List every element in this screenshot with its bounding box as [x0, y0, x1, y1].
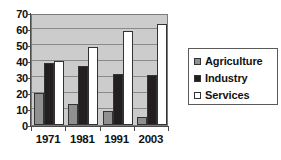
x-tick-label: 1981	[65, 133, 99, 145]
legend-label: Agriculture	[205, 55, 263, 67]
y-tick-label: 10	[6, 106, 28, 115]
bar-services-1981	[88, 47, 98, 125]
x-tick-label: 2003	[134, 133, 168, 145]
legend-swatch-icon	[194, 92, 201, 99]
legend-swatch-icon	[194, 58, 201, 65]
y-tick-mark	[26, 62, 31, 63]
legend-item-industry[interactable]: Industry	[194, 70, 277, 86]
legend-label: Services	[205, 89, 249, 101]
legend-item-agriculture[interactable]: Agriculture	[194, 53, 277, 69]
legend-item-services[interactable]: Services	[194, 87, 277, 103]
bar-agriculture-1981	[68, 104, 78, 125]
y-tick-label: 40	[6, 58, 28, 67]
bar-agriculture-2003	[137, 117, 147, 125]
bar-services-1991	[123, 31, 133, 125]
bar-services-1971	[54, 61, 64, 125]
y-tick-label: 70	[6, 10, 28, 19]
x-tick-mark	[100, 127, 101, 131]
x-tick-mark	[65, 127, 66, 131]
y-tick-label: 30	[6, 74, 28, 83]
bar-group	[101, 15, 135, 125]
bar-industry-1981	[78, 66, 88, 125]
bar-industry-1991	[113, 74, 123, 125]
plot-area	[31, 14, 168, 126]
x-axis-labels: 1971198119912003	[31, 133, 168, 151]
y-tick-label: 50	[6, 42, 28, 51]
bar-group	[32, 15, 66, 125]
y-tick-label: 0	[6, 122, 28, 131]
x-tick-mark	[168, 127, 169, 131]
bar-industry-1971	[44, 63, 54, 125]
bar-agriculture-1991	[103, 111, 113, 125]
y-tick-label: 60	[6, 26, 28, 35]
y-tick-mark	[26, 78, 31, 79]
x-tick-label: 1991	[100, 133, 134, 145]
y-axis-labels: 010203040506070	[0, 0, 28, 160]
x-tick-mark	[31, 127, 32, 131]
bar-chart: 010203040506070 1971198119912003 Agricul…	[0, 0, 281, 160]
bar-group	[135, 15, 169, 125]
chart-legend: AgricultureIndustryServices	[188, 48, 278, 105]
bar-industry-2003	[147, 75, 157, 125]
legend-label: Industry	[205, 72, 248, 84]
y-tick-mark	[26, 46, 31, 47]
bar-group	[66, 15, 100, 125]
x-tick-mark	[134, 127, 135, 131]
bar-agriculture-1971	[34, 93, 44, 125]
bar-services-2003	[157, 24, 167, 125]
legend-swatch-icon	[194, 75, 201, 82]
y-tick-mark	[26, 14, 31, 15]
y-tick-label: 20	[6, 90, 28, 99]
y-tick-mark	[26, 110, 31, 111]
x-tick-label: 1971	[31, 133, 65, 145]
y-tick-mark	[26, 94, 31, 95]
y-tick-mark	[26, 30, 31, 31]
